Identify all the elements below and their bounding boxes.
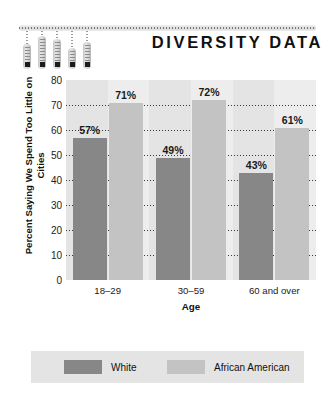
diversity-data-figure: DIVERSITY DATA Percent Saying We Spend T… [0, 0, 335, 402]
legend-swatch [167, 360, 205, 374]
bar-value-label: 57% [67, 124, 113, 136]
y-axis-tick-0: 0 [56, 275, 62, 286]
x-axis-title: Age [66, 301, 316, 312]
figure-header: DIVERSITY DATA [0, 0, 335, 70]
legend-item-african-american: African American [167, 360, 290, 374]
bar-african-american-0 [109, 103, 143, 281]
bar-white-2 [239, 173, 273, 281]
chart-container: Percent Saying We Spend Too Little on Ci… [0, 70, 335, 335]
x-axis-tick-labels: 18–2930–5960 and over [66, 285, 316, 299]
legend-swatch [64, 360, 102, 374]
bar-value-label: 43% [233, 159, 279, 171]
bar-white-0 [73, 138, 107, 281]
thermometer-hang-line [56, 31, 58, 39]
bar-value-label: 71% [103, 89, 149, 101]
y-axis-tick-30: 30 [51, 200, 62, 211]
thermometer-hang-line [26, 31, 28, 44]
y-axis-tick-60: 60 [51, 125, 62, 136]
y-axis-tick-70: 70 [51, 100, 62, 111]
page-title: DIVERSITY DATA [152, 33, 323, 52]
x-axis-tick-1: 30–59 [178, 285, 205, 296]
bar-value-label: 72% [186, 86, 232, 98]
bar-value-label: 61% [269, 114, 315, 126]
thermometer-hang-line [86, 31, 88, 42]
x-axis-tick-2: 60 and over [249, 285, 300, 296]
thermometer-icon-5 [83, 42, 91, 69]
y-axis-tick-10: 10 [51, 250, 62, 261]
thermometer-icon-4 [68, 48, 76, 69]
bar-value-label: 49% [150, 144, 196, 156]
thermometer-hang-line [71, 31, 73, 48]
bar-white-1 [156, 158, 190, 281]
bar-african-american-2 [275, 128, 309, 281]
thermometer-icon-2 [38, 36, 46, 69]
y-axis-tick-40: 40 [51, 175, 62, 186]
decorative-dotted-rail [19, 25, 316, 31]
y-axis-tick-50: 50 [51, 150, 62, 161]
legend-label: White [111, 362, 137, 373]
thermometer-icon-1 [23, 44, 31, 69]
gridline-70 [66, 105, 316, 106]
chart-legend: WhiteAfrican American [31, 351, 304, 383]
legend-label: African American [214, 362, 290, 373]
x-axis-tick-0: 18–29 [94, 285, 121, 296]
legend-item-white: White [64, 360, 137, 374]
plot-area: 57%71%49%72%43%61% [66, 80, 316, 280]
y-axis-tick-labels: 80706050403020100 [36, 80, 62, 280]
thermometer-icon-3 [53, 39, 61, 69]
y-axis-tick-80: 80 [51, 75, 62, 86]
y-axis-tick-20: 20 [51, 225, 62, 236]
bar-african-american-1 [192, 100, 226, 280]
